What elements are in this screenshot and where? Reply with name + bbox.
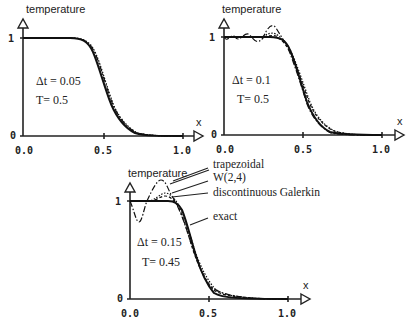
legend-discontinuous-galerkin: discontinuous Galerkin bbox=[213, 186, 320, 198]
y-axis-label: temperature bbox=[26, 3, 85, 15]
y-axis-label: temperature bbox=[128, 167, 187, 179]
leader-w24 bbox=[172, 181, 208, 193]
x-tick-0: 0.0 bbox=[216, 144, 234, 155]
x-tick-05: 0.5 bbox=[199, 308, 217, 319]
x-axis-arrow-icon bbox=[194, 131, 203, 141]
T-annotation: T= 0.5 bbox=[237, 92, 269, 106]
x-axis-label: x bbox=[303, 279, 309, 291]
y-tick-0: 0 bbox=[211, 129, 217, 140]
ticks bbox=[20, 38, 183, 139]
panel-3: temperature 1 0 0.0 0.5 1.0 x Δt = 0.15 … bbox=[115, 158, 320, 319]
x-tick-1: 1.0 bbox=[278, 308, 296, 319]
x-axis-arrow-icon bbox=[395, 130, 404, 140]
T-annotation: T= 0.5 bbox=[36, 93, 68, 107]
x-tick-0: 0.0 bbox=[15, 145, 33, 156]
x-axis-label: x bbox=[196, 116, 202, 128]
y-axis-arrow-icon bbox=[219, 19, 229, 28]
legend-w24: W(2,4) bbox=[213, 171, 246, 184]
panel-1: temperature 1 0 0.0 0.5 1.0 x Δt = 0.05 … bbox=[8, 3, 203, 156]
y-tick-1: 1 bbox=[209, 32, 215, 43]
legend-trapezoidal: trapezoidal bbox=[213, 158, 264, 171]
y-tick-1: 1 bbox=[8, 33, 14, 44]
x-tick-1: 1.0 bbox=[372, 144, 390, 155]
x-axis-arrow-icon bbox=[301, 294, 310, 304]
x-tick-1: 1.0 bbox=[173, 145, 191, 156]
x-tick-05: 0.5 bbox=[94, 145, 112, 156]
y-axis-arrow-icon bbox=[18, 19, 28, 28]
y-tick-0: 0 bbox=[10, 130, 16, 141]
T-annotation: T= 0.45 bbox=[142, 255, 180, 269]
y-tick-1: 1 bbox=[115, 196, 121, 207]
y-axis-label: temperature bbox=[222, 3, 281, 15]
dt-annotation: Δt = 0.1 bbox=[232, 73, 271, 87]
x-axis-label: x bbox=[397, 115, 403, 127]
x-tick-0: 0.0 bbox=[121, 308, 139, 319]
dt-annotation: Δt = 0.15 bbox=[137, 235, 182, 249]
figure: temperature 1 0 0.0 0.5 1.0 x Δt = 0.05 … bbox=[0, 0, 408, 323]
leader-discontinuous-galerkin bbox=[172, 193, 208, 197]
y-tick-0: 0 bbox=[117, 293, 123, 304]
y-axis-arrow-icon bbox=[125, 183, 135, 192]
dt-annotation: Δt = 0.05 bbox=[36, 74, 81, 88]
leader-exact bbox=[190, 218, 208, 225]
x-tick-05: 0.5 bbox=[294, 144, 312, 155]
panel-2: temperature 1 0 0.0 0.5 1.0 x Δt = 0.1 T… bbox=[209, 3, 404, 155]
ticks bbox=[127, 201, 288, 302]
legend-exact: exact bbox=[213, 210, 238, 222]
